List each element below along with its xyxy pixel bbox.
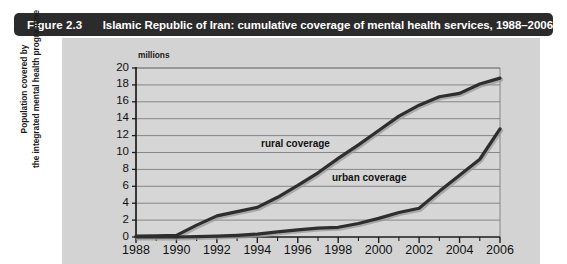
x-tick-label: 2002 <box>397 243 441 257</box>
series-label-urban: urban coverage <box>332 172 406 183</box>
y-tick-label: 6 <box>103 179 129 191</box>
y-tick-label: 12 <box>103 128 129 140</box>
y-tick-label: 8 <box>103 162 129 174</box>
x-tick-label: 2006 <box>478 243 522 257</box>
y-tick-label: 4 <box>103 196 129 208</box>
x-tick-label: 2004 <box>438 243 482 257</box>
x-tick-label: 1992 <box>195 243 239 257</box>
x-tick-label: 2000 <box>357 243 401 257</box>
x-tick-label: 1998 <box>316 243 360 257</box>
y-tick-label: 10 <box>103 145 129 157</box>
y-tick-label: 18 <box>103 77 129 89</box>
chart-plot-area <box>0 0 567 264</box>
x-tick-label: 1994 <box>235 243 279 257</box>
x-tick-label: 1988 <box>114 243 158 257</box>
y-tick-label: 2 <box>103 213 129 225</box>
y-tick-label: 14 <box>103 111 129 123</box>
series-label-rural: rural coverage <box>261 138 330 149</box>
y-tick-label: 20 <box>103 61 129 73</box>
x-tick-label: 1990 <box>154 243 198 257</box>
y-tick-label: 0 <box>103 230 129 242</box>
y-tick-label: 16 <box>103 94 129 106</box>
x-tick-label: 1996 <box>276 243 320 257</box>
